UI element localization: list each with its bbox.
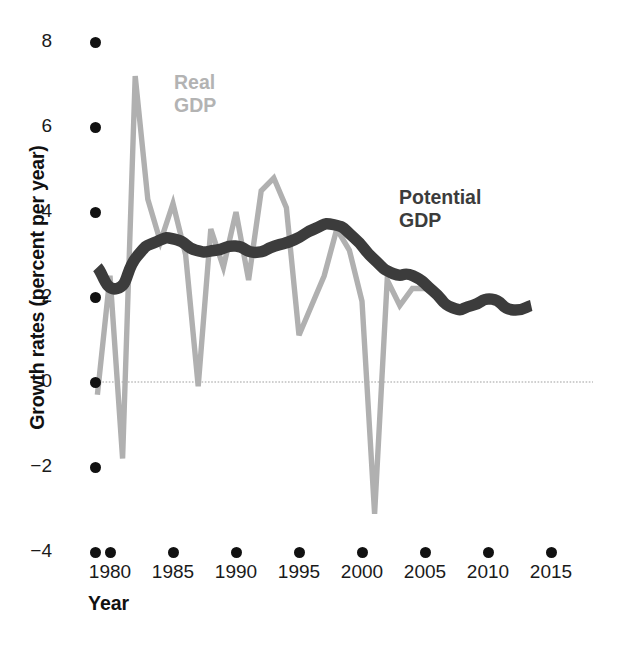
y-tick-label: −4 <box>12 540 52 562</box>
y-axis-label: Growth rates (percent per year) <box>26 123 49 453</box>
y-tick-dot <box>90 462 101 473</box>
y-tick-dot <box>90 207 101 218</box>
x-tick-label: 1985 <box>143 561 203 583</box>
series-line-real-gdp <box>97 76 425 514</box>
potential-gdp-label: Potential GDP <box>399 186 481 231</box>
x-tick-dot <box>105 547 116 558</box>
x-tick-dot <box>483 547 494 558</box>
y-tick-label: 8 <box>12 30 52 52</box>
y-tick-dot <box>90 377 101 388</box>
x-tick-dot <box>168 547 179 558</box>
x-tick-dot <box>294 547 305 558</box>
gdp-growth-chart: 86420−2−4 198019851990199520002005201020… <box>0 0 636 648</box>
x-tick-label: 2000 <box>332 561 392 583</box>
x-tick-label: 1990 <box>206 561 266 583</box>
y-tick-dot <box>90 547 101 558</box>
y-tick-label: −2 <box>12 455 52 477</box>
x-tick-label: 1980 <box>80 561 140 583</box>
y-tick-dot <box>90 122 101 133</box>
y-tick-dot <box>90 292 101 303</box>
x-tick-dot <box>546 547 557 558</box>
x-tick-dot <box>420 547 431 558</box>
x-tick-label: 2015 <box>521 561 581 583</box>
x-tick-dot <box>357 547 368 558</box>
x-tick-label: 2005 <box>395 561 455 583</box>
x-tick-dot <box>231 547 242 558</box>
y-tick-dot <box>90 37 101 48</box>
x-tick-label: 1995 <box>269 561 329 583</box>
real-gdp-label: Real GDP <box>174 71 216 116</box>
x-axis-label: Year <box>88 592 129 615</box>
x-tick-label: 2010 <box>458 561 518 583</box>
